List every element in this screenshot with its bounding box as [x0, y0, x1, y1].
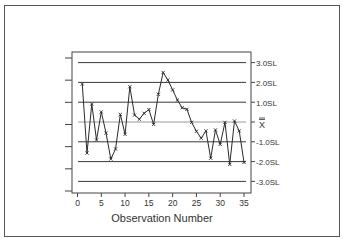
x-marker-icon — [200, 137, 203, 140]
sigma-limit-label: -1.0SL — [256, 138, 280, 147]
left-axis-ticks — [65, 58, 72, 191]
x-tick-label: 0 — [75, 198, 80, 208]
sigma-limit-label: 2.0SL — [256, 79, 277, 88]
x-tick-label: 10 — [120, 198, 130, 208]
x-marker-icon — [143, 112, 146, 115]
sigma-limit-label: 3.0SL — [256, 59, 277, 68]
control-chart: 3.0SL2.0SL1.0SLX-1.0SL-2.0SL-3.0SL 05101… — [0, 0, 343, 245]
control-limit-labels: 3.0SL2.0SL1.0SLX-1.0SL-2.0SL-3.0SL — [256, 59, 280, 187]
x-marker-icon — [138, 118, 141, 121]
x-marker-icon — [195, 130, 198, 133]
x-axis: 05101520253035 — [75, 193, 249, 208]
sigma-limit-label: -3.0SL — [256, 178, 280, 187]
x-tick-label: 25 — [192, 198, 202, 208]
x-tick-label: 15 — [144, 198, 154, 208]
data-series — [81, 71, 246, 166]
x-tick-label: 5 — [99, 198, 104, 208]
x-tick-label: 30 — [215, 198, 225, 208]
center-line-label: X — [259, 120, 265, 130]
x-tick-label: 35 — [239, 198, 249, 208]
x-tick-label: 20 — [168, 198, 178, 208]
sigma-limit-label: 1.0SL — [256, 99, 277, 108]
x-axis-title: Observation Number — [111, 212, 213, 224]
sigma-limit-label: -2.0SL — [256, 158, 280, 167]
observation-line — [82, 73, 244, 165]
